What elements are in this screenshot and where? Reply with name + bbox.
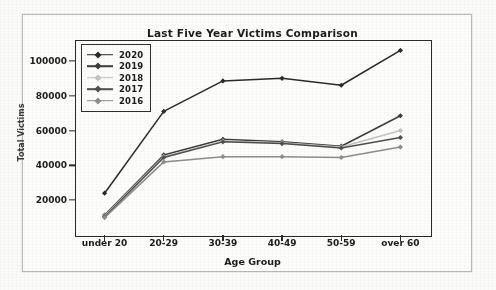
- legend-label: 2020: [119, 50, 143, 60]
- data-point-marker: [279, 76, 284, 81]
- chart-legend: 20202019201820172016: [81, 44, 151, 112]
- series-2019: [102, 113, 403, 217]
- legend-swatch-icon: [87, 61, 113, 72]
- data-point-marker: [220, 154, 225, 159]
- data-point-marker: [398, 128, 403, 133]
- legend-label: 2018: [119, 73, 143, 83]
- legend-label: 2019: [119, 61, 143, 71]
- legend-label: 2016: [119, 96, 143, 106]
- series-lines: [0, 0, 496, 290]
- data-point-marker: [398, 144, 403, 149]
- scanned-chart-page: Last Five Year Victims Comparison Total …: [0, 0, 496, 290]
- legend-item-2018[interactable]: 2018: [87, 72, 143, 84]
- data-point-marker: [339, 155, 344, 160]
- data-point-marker: [398, 135, 403, 140]
- legend-swatch-icon: [87, 72, 113, 83]
- legend-item-2019[interactable]: 2019: [87, 61, 143, 73]
- line-chart: Last Five Year Victims Comparison Total …: [0, 0, 496, 290]
- legend-item-2016[interactable]: 2016: [87, 95, 143, 107]
- data-point-marker: [220, 78, 225, 83]
- legend-swatch-icon: [87, 49, 113, 60]
- legend-label: 2017: [119, 84, 143, 94]
- legend-item-2020[interactable]: 2020: [87, 49, 143, 61]
- legend-item-2017[interactable]: 2017: [87, 84, 143, 96]
- data-point-marker: [398, 113, 403, 118]
- series-2016: [102, 144, 403, 220]
- legend-swatch-icon: [87, 95, 113, 106]
- data-point-marker: [279, 154, 284, 159]
- legend-swatch-icon: [87, 84, 113, 95]
- series-line: [105, 147, 401, 218]
- series-line: [105, 138, 401, 217]
